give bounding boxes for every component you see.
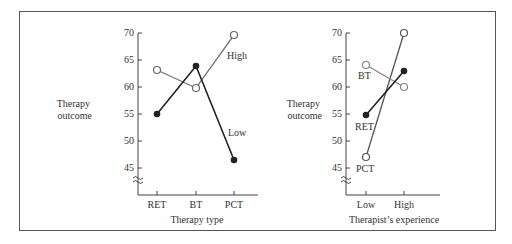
- svg-text:55: 55: [124, 108, 134, 119]
- left-y-ticks: 70 65 60 55 50 45: [124, 27, 142, 173]
- label-ret: RET: [355, 121, 374, 132]
- svg-text:65: 65: [332, 54, 342, 65]
- svg-text:BT: BT: [190, 199, 203, 210]
- svg-text:45: 45: [124, 162, 134, 173]
- right-series-pct: PCT: [356, 30, 408, 175]
- right-xlabel: Therapist’s experience: [349, 214, 440, 225]
- svg-text:70: 70: [124, 27, 134, 38]
- svg-text:45: 45: [332, 162, 342, 173]
- right-ylabel-line2: outcome: [288, 110, 323, 121]
- svg-text:Low: Low: [357, 199, 376, 210]
- label-pct: PCT: [356, 163, 374, 174]
- left-series-low: Low: [154, 63, 247, 164]
- svg-text:PCT: PCT: [225, 199, 243, 210]
- left-ylabel-line1: Therapy: [57, 98, 90, 109]
- svg-text:60: 60: [332, 81, 342, 92]
- svg-text:65: 65: [124, 54, 134, 65]
- left-chart: Therapy outcome 70 65 60 55 50 45: [57, 27, 258, 225]
- svg-text:70: 70: [332, 27, 342, 38]
- label-bt: BT: [358, 70, 371, 81]
- left-x-ticks: RET BT PCT: [148, 191, 244, 210]
- svg-text:60: 60: [124, 81, 134, 92]
- right-chart: Therapy outcome 70 65 60 55 50 45 Low Hi…: [287, 27, 440, 225]
- left-ylabel-line2: outcome: [58, 110, 93, 121]
- right-ylabel-line1: Therapy: [287, 98, 320, 109]
- label-low: Low: [228, 127, 247, 138]
- svg-text:50: 50: [332, 135, 342, 146]
- right-x-ticks: Low High: [357, 191, 414, 210]
- svg-text:RET: RET: [148, 199, 167, 210]
- svg-text:50: 50: [124, 135, 134, 146]
- right-y-ticks: 70 65 60 55 50 45: [332, 27, 350, 173]
- left-series-high: High: [154, 32, 248, 92]
- svg-text:High: High: [394, 199, 414, 210]
- figure-canvas: Therapy outcome 70 65 60 55 50 45: [0, 0, 512, 244]
- label-high: High: [227, 50, 247, 61]
- left-xlabel: Therapy type: [170, 214, 224, 225]
- svg-text:55: 55: [332, 108, 342, 119]
